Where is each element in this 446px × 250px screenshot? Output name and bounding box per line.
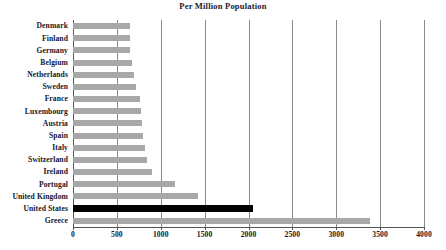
y-label-sweden: Sweden [43, 81, 69, 94]
bar-row [73, 20, 424, 33]
bar-rows [73, 20, 424, 227]
x-label-500: 500 [111, 230, 123, 239]
bar-row [73, 215, 424, 228]
bar-row [73, 81, 424, 94]
bar-row [73, 154, 424, 167]
bar-row [73, 44, 424, 57]
y-label-netherlands: Netherlands [27, 69, 68, 82]
x-label-3500: 3500 [372, 230, 388, 239]
bar-austria [73, 120, 142, 126]
x-label-3000: 3000 [328, 230, 344, 239]
bar-row [73, 57, 424, 70]
y-label-switzerland: Switzerland [28, 154, 68, 167]
y-label-belgium: Belgium [40, 57, 68, 70]
bar-greece [73, 218, 370, 224]
y-label-finland: Finland [42, 32, 68, 45]
bar-row [73, 93, 424, 106]
y-label-germany: Germany [37, 44, 69, 57]
bar-row [73, 178, 424, 191]
bar-row [73, 130, 424, 143]
x-label-1000: 1000 [153, 230, 169, 239]
bar-belgium [73, 60, 132, 66]
bar-ireland [73, 169, 152, 175]
y-label-denmark: Denmark [37, 20, 69, 33]
bar-row [73, 117, 424, 130]
y-label-italy: Italy [52, 142, 68, 155]
chart-root: Per Million Population DenmarkFinlandGer… [0, 0, 446, 250]
chart-title: Per Million Population [0, 1, 446, 11]
x-label-4000: 4000 [416, 230, 432, 239]
bar-denmark [73, 23, 130, 29]
bar-sweden [73, 84, 136, 90]
y-label-france: France [45, 93, 68, 106]
bar-row [73, 32, 424, 45]
y-axis-category-labels: DenmarkFinlandGermanyBelgiumNetherlandsS… [0, 20, 71, 227]
y-label-ireland: Ireland [43, 166, 68, 179]
y-label-greece: Greece [45, 215, 68, 228]
bar-netherlands [73, 72, 134, 78]
bar-row [73, 105, 424, 118]
x-axis-tick-labels: 05001000150020002500300035004000 [73, 230, 446, 246]
y-label-portugal: Portugal [39, 178, 68, 191]
bar-portugal [73, 181, 175, 187]
gridline-4000 [424, 20, 425, 227]
x-label-2000: 2000 [241, 230, 257, 239]
bar-row [73, 190, 424, 203]
x-label-2500: 2500 [285, 230, 301, 239]
bar-row [73, 142, 424, 155]
x-label-0: 0 [71, 230, 75, 239]
bar-row [73, 69, 424, 82]
bar-france [73, 96, 140, 102]
bar-finland [73, 35, 130, 41]
y-label-austria: Austria [43, 117, 68, 130]
y-label-spain: Spain [49, 130, 68, 143]
bar-row [73, 166, 424, 179]
bar-united-kingdom [73, 193, 198, 199]
bar-germany [73, 47, 130, 53]
plot-area [73, 20, 424, 227]
y-label-united-states: United States [23, 203, 68, 216]
x-label-1500: 1500 [197, 230, 213, 239]
y-label-luxembourg: Luxembourg [25, 105, 68, 118]
bar-united-states [73, 205, 253, 212]
bar-row [73, 203, 424, 216]
y-label-united-kingdom: United Kingdom [12, 190, 68, 203]
bar-italy [73, 145, 145, 151]
bar-spain [73, 133, 143, 139]
bar-switzerland [73, 157, 147, 163]
bar-luxembourg [73, 108, 141, 114]
